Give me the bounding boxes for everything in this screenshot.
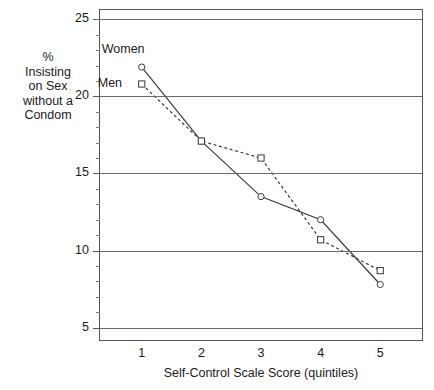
- y-tick-minor: [96, 127, 100, 128]
- series-layer: [100, 10, 422, 340]
- gridline: [100, 251, 422, 252]
- x-tick-label: 4: [309, 346, 333, 360]
- y-tick: [93, 173, 100, 174]
- y-tick-minor: [96, 297, 100, 298]
- y-tick-minor: [96, 112, 100, 113]
- x-tick-label: 3: [249, 346, 273, 360]
- y-axis-label: % Insisting on Sex without a Condom: [2, 50, 94, 123]
- gridline: [100, 328, 422, 329]
- plot-area: [99, 9, 423, 341]
- y-tick-minor: [96, 204, 100, 205]
- y-tick-minor: [96, 158, 100, 159]
- x-axis-label: Self-Control Scale Score (quintiles): [99, 366, 423, 380]
- data-point-men: [258, 155, 264, 161]
- x-tick-label: 2: [189, 346, 213, 360]
- gridline: [100, 19, 422, 20]
- y-tick-label: 5: [61, 320, 89, 334]
- data-point-men: [139, 81, 145, 87]
- data-point-men: [377, 268, 383, 274]
- y-tick: [93, 251, 100, 252]
- y-tick-minor: [96, 281, 100, 282]
- gridline: [100, 173, 422, 174]
- y-tick: [93, 96, 100, 97]
- series-line-women: [142, 67, 381, 284]
- series-annotation-women: Women: [102, 42, 145, 56]
- series-annotation-men: Men: [98, 76, 122, 90]
- y-tick-minor: [96, 189, 100, 190]
- y-tick-minor: [96, 66, 100, 67]
- data-point-women: [139, 64, 145, 70]
- data-point-men: [318, 237, 324, 243]
- x-tick-label: 1: [130, 346, 154, 360]
- chart-figure: % Insisting on Sex without a Condom 5101…: [0, 0, 434, 390]
- y-tick-label: 10: [61, 243, 89, 257]
- gridline: [100, 96, 422, 97]
- data-point-women: [318, 217, 324, 223]
- y-tick-minor: [96, 143, 100, 144]
- y-tick-minor: [96, 266, 100, 267]
- y-tick-minor: [96, 35, 100, 36]
- plot-inner: [100, 10, 422, 340]
- y-tick-minor: [96, 312, 100, 313]
- y-tick-label: 25: [61, 11, 89, 25]
- y-tick-minor: [96, 235, 100, 236]
- y-tick-label: 15: [61, 165, 89, 179]
- data-point-women: [377, 281, 383, 287]
- y-tick-minor: [96, 50, 100, 51]
- data-point-men: [198, 138, 204, 144]
- x-tick-label: 5: [368, 346, 392, 360]
- y-tick-minor: [96, 220, 100, 221]
- y-tick-minor: [96, 19, 100, 20]
- data-point-women: [258, 193, 264, 199]
- y-tick: [93, 328, 100, 329]
- y-tick-label: 20: [61, 88, 89, 102]
